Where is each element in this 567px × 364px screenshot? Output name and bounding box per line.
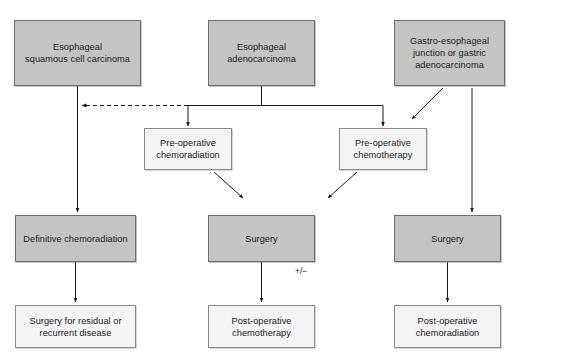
node-label-line1: Esophageal (227, 41, 296, 53)
node-label-line1: Gastro-esophageal (410, 35, 489, 47)
node-definitive-chemoradiation[interactable]: Definitive chemoradiation (15, 215, 136, 262)
node-label-line2: chemotherapy (232, 327, 292, 339)
node-post-operative-chemoradiation[interactable]: Post-operative chemoradiation (394, 305, 501, 348)
node-label-line1: Definitive chemoradiation (23, 233, 127, 245)
node-label-line1: Pre-operative (354, 137, 413, 149)
node-esophageal-adenocarcinoma[interactable]: Esophageal adenocarcinoma (208, 20, 315, 86)
edge-gej-to-pre-operative-chemotherapy (412, 88, 443, 119)
node-label-line1: Post-operative (232, 315, 292, 327)
edge-adenocarcinoma-to-pre-operative-chemoradiation (188, 106, 262, 127)
node-label-line2: adenocarcinoma (227, 53, 296, 65)
flowchart-canvas: Esophageal squamous cell carcinoma Esoph… (0, 0, 567, 364)
node-label-line2: chemotherapy (354, 149, 413, 161)
node-esophageal-squamous-cell-carcinoma[interactable]: Esophageal squamous cell carcinoma (14, 20, 141, 86)
node-surgery-middle[interactable]: Surgery (208, 215, 315, 262)
node-label-line2: chemoradiation (416, 327, 480, 339)
node-label-line1: Post-operative (416, 315, 480, 327)
edge-pre-operative-chemotherapy-to-surgery-middle (328, 172, 357, 198)
edge-label-plus-minus: +/− (295, 266, 307, 276)
node-label-line1: Surgery (431, 233, 464, 245)
node-surgery-right[interactable]: Surgery (394, 215, 501, 262)
node-label-line2: chemoradiation (156, 149, 220, 161)
node-pre-operative-chemoradiation[interactable]: Pre-operative chemoradiation (144, 128, 232, 170)
edge-pre-operative-chemoradiation-to-surgery-middle (214, 172, 243, 198)
node-label-line1: Surgery for residual or (29, 315, 121, 327)
node-label-line2: junction or gastric (410, 47, 489, 59)
edge-adenocarcinoma-to-pre-operative-chemotherapy (262, 106, 384, 127)
node-pre-operative-chemotherapy[interactable]: Pre-operative chemotherapy (339, 128, 427, 170)
node-label-line1: Esophageal (25, 41, 130, 53)
node-post-operative-chemotherapy[interactable]: Post-operative chemotherapy (208, 305, 315, 348)
node-label-line2: squamous cell carcinoma (25, 53, 130, 65)
node-label-line3: adenocarcinoma (410, 59, 489, 71)
node-label-line1: Surgery (245, 233, 278, 245)
node-surgery-for-residual-or-recurrent-disease[interactable]: Surgery for residual or recurrent diseas… (15, 305, 136, 348)
node-label-line2: recurrent disease (29, 327, 121, 339)
node-label-line1: Pre-operative (156, 137, 220, 149)
node-gastro-esophageal-junction-or-gastric-adenocarcinoma[interactable]: Gastro-esophageal junction or gastric ad… (394, 20, 505, 86)
